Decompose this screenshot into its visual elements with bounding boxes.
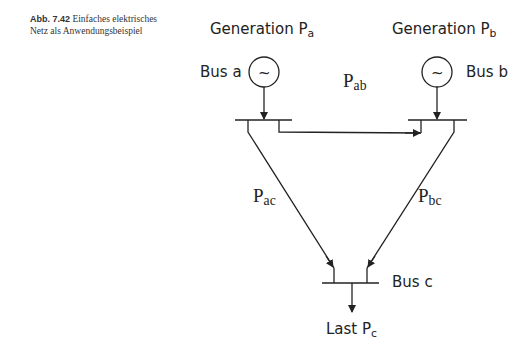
generation-a-label: Generation Pa	[210, 20, 314, 40]
p-bc-label: Pbc	[418, 185, 441, 209]
load-c-label: Last Pc	[326, 320, 377, 340]
p-ac-label: Pac	[253, 185, 276, 209]
line-ab	[279, 120, 421, 133]
bus-b-label: Bus b	[466, 63, 508, 81]
generator-a-tilde: ~	[258, 64, 271, 82]
generator-b-tilde: ~	[431, 64, 444, 82]
power-network-diagram	[0, 0, 531, 358]
p-ab-label: Pab	[343, 70, 366, 94]
generation-b-label: Generation Pb	[392, 20, 496, 40]
bus-c-label: Bus c	[392, 273, 433, 291]
bus-a-label: Bus a	[200, 63, 242, 81]
